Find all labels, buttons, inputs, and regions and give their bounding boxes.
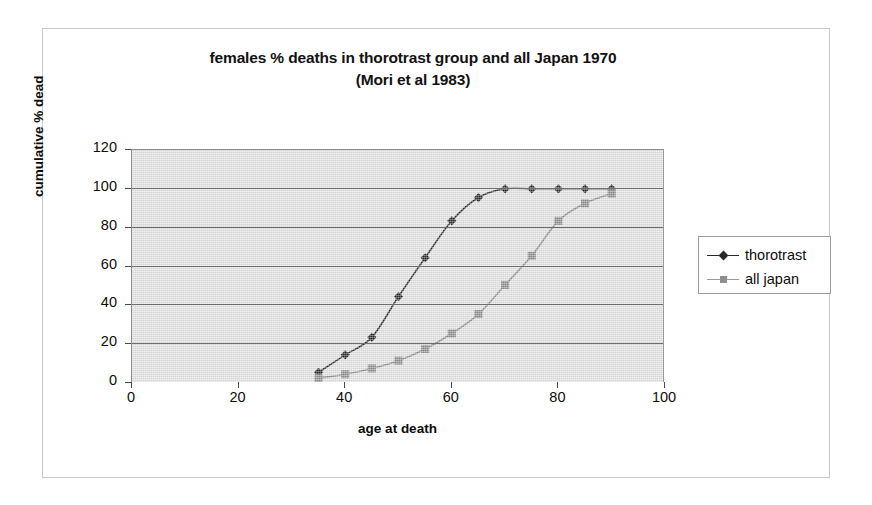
- gridline: [132, 227, 663, 228]
- y-axis-tick: [125, 266, 131, 267]
- chart-figure: females % deaths in thorotrast group and…: [42, 28, 830, 478]
- data-point-marker: [474, 193, 483, 202]
- x-axis-title: age at death: [131, 421, 664, 436]
- gridline: [132, 304, 663, 305]
- gridline: [132, 149, 663, 150]
- data-point-marker: [315, 374, 323, 382]
- plot-area: [131, 149, 664, 382]
- data-point-marker: [421, 345, 429, 353]
- series-line-thorotrast: [319, 188, 612, 372]
- x-axis-tick: [131, 382, 132, 388]
- gridline: [132, 188, 663, 189]
- chart-title-line1: females % deaths in thorotrast group and…: [210, 49, 617, 66]
- chart-legend: thorotrast all japan: [698, 236, 831, 294]
- gridline: [132, 343, 663, 344]
- data-point-marker: [368, 364, 376, 372]
- data-point-marker: [501, 281, 509, 289]
- data-point-marker: [554, 217, 562, 225]
- x-axis-tick-label: 20: [230, 389, 246, 405]
- y-axis-tick-label: 20: [43, 333, 117, 349]
- data-point-marker: [395, 357, 403, 365]
- y-axis-tick: [125, 304, 131, 305]
- y-axis-tick-label: 0: [43, 372, 117, 388]
- chart-title: females % deaths in thorotrast group and…: [103, 47, 723, 92]
- x-axis-tick: [344, 382, 345, 388]
- legend-item-thorotrast[interactable]: thorotrast: [707, 243, 822, 267]
- x-axis-tick-label: 60: [443, 389, 459, 405]
- data-point-marker: [394, 292, 403, 301]
- series-line-all-japan: [319, 194, 612, 378]
- y-axis-tick: [125, 188, 131, 189]
- legend-label-thorotrast: thorotrast: [745, 247, 806, 263]
- data-point-marker: [341, 370, 349, 378]
- x-axis-tick: [451, 382, 452, 388]
- x-axis-tick: [238, 382, 239, 388]
- y-axis-tick-label: 100: [43, 178, 117, 194]
- y-axis-tick: [125, 227, 131, 228]
- x-axis-tick-label: 80: [549, 389, 565, 405]
- data-point-marker: [341, 350, 350, 359]
- y-axis-tick: [125, 343, 131, 344]
- diamond-marker-icon: [707, 249, 739, 261]
- gridline: [132, 266, 663, 267]
- legend-item-all-japan[interactable]: all japan: [707, 267, 822, 291]
- y-axis-tick-label: 120: [43, 139, 117, 155]
- data-point-marker: [528, 252, 536, 260]
- y-axis-tick-label: 60: [43, 256, 117, 272]
- y-axis-tick-label: 80: [43, 217, 117, 233]
- data-point-marker: [581, 199, 589, 207]
- chart-title-line2: (Mori et al 1983): [103, 69, 723, 91]
- legend-label-all-japan: all japan: [745, 271, 799, 287]
- x-axis-tick-label: 0: [127, 389, 135, 405]
- x-axis-tick: [664, 382, 665, 388]
- square-marker-icon: [707, 273, 739, 285]
- x-axis-tick: [557, 382, 558, 388]
- x-axis-tick-label: 40: [336, 389, 352, 405]
- x-axis-tick-label: 100: [652, 389, 676, 405]
- y-axis-tick-label: 40: [43, 294, 117, 310]
- data-point-marker: [448, 329, 456, 337]
- data-point-marker: [608, 190, 616, 198]
- data-point-marker: [474, 310, 482, 318]
- y-axis-tick: [125, 149, 131, 150]
